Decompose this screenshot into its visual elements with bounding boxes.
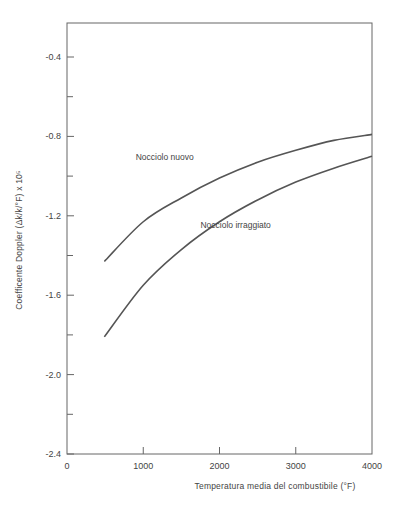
series-labels: Nocciolo nuovoNocciolo irraggiato <box>136 152 271 229</box>
series-label: Nocciolo nuovo <box>136 152 194 162</box>
x-tick-label: 3000 <box>286 461 306 471</box>
y-axis-ticks: -0.4-0.8-1.2-1.6-2.0-2.4 <box>45 52 74 459</box>
y-tick-label: -0.8 <box>45 131 61 141</box>
y-tick-label: -0.4 <box>45 52 61 62</box>
x-tick-label: 2000 <box>209 461 229 471</box>
y-tick-label: -2.4 <box>45 449 61 459</box>
y-tick-label: -1.2 <box>45 211 61 221</box>
series-label: Nocciolo irraggiato <box>200 220 271 230</box>
y-tick-label: -1.6 <box>45 290 61 300</box>
x-tick-label: 4000 <box>362 461 382 471</box>
x-axis-ticks: 01000200030004000 <box>64 447 382 471</box>
x-axis-title: Temperatura media del combustibile (°F) <box>195 481 356 491</box>
x-tick-label: 0 <box>64 461 69 471</box>
plot-frame <box>67 23 372 454</box>
x-tick-label: 1000 <box>133 461 153 471</box>
doppler-coefficient-chart: -0.4-0.8-1.2-1.6-2.0-2.4 010002000300040… <box>0 0 399 512</box>
series-lines <box>104 134 372 336</box>
series-line <box>104 156 372 337</box>
y-tick-label: -2.0 <box>45 370 61 380</box>
y-axis-title: Coefficente Doppler (Δk/k/°F) x 10⁵ <box>14 170 24 309</box>
